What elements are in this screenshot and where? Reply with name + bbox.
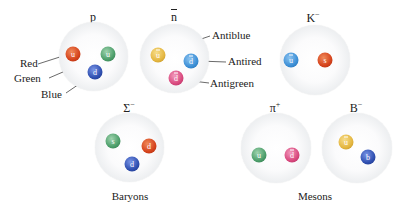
mesons-label: Mesons — [298, 190, 332, 202]
quark-b-blue: b — [361, 150, 376, 165]
antineutron-label: n — [171, 11, 177, 23]
baryons-label: Baryons — [112, 190, 149, 202]
callout-antiblue: Antiblue — [212, 30, 251, 41]
pion-plus — [241, 113, 311, 183]
quark-anti-d-antigreen: d — [169, 71, 184, 86]
quark-u-green: u — [101, 47, 116, 62]
quark-anti-u-antiblue: u — [151, 48, 166, 63]
quark-s-red: s — [318, 53, 333, 68]
quark-d-blue: d — [88, 65, 103, 80]
kaon-minus-label: K− — [306, 11, 319, 24]
quark-s-green: s — [106, 134, 121, 149]
quark-anti-u-antired: u — [284, 53, 299, 68]
quark-u-green: u — [252, 148, 267, 163]
quark-d-blue: d — [125, 157, 140, 172]
callout-blue: Blue — [41, 89, 62, 100]
b-meson-minus — [322, 113, 392, 183]
quark-d-red: d — [142, 139, 157, 154]
callout-red: Red — [20, 58, 38, 69]
quark-anti-d-antigreen: d — [285, 148, 300, 163]
quark-anti-d-antired: d — [184, 54, 199, 69]
callout-antired: Antired — [228, 56, 262, 67]
quark-anti-u-antiblue: u — [339, 135, 354, 150]
callout-green: Green — [14, 73, 41, 84]
callout-antigreen: Antigreen — [210, 78, 254, 89]
quark-u-red: u — [66, 47, 81, 62]
